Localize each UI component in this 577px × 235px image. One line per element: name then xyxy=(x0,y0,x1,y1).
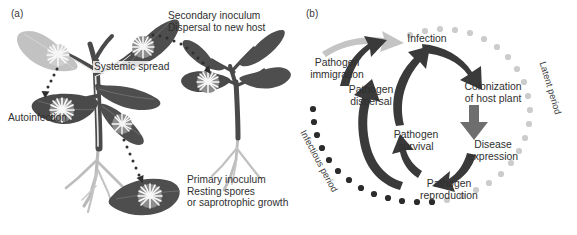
leaf-pale-upper-left xyxy=(17,31,78,71)
label-disease-expression: Disease expression xyxy=(454,139,532,163)
label-primary-inoculum: Primary inoculum Resting spores or sapro… xyxy=(187,174,288,209)
lesion-pale-leaf xyxy=(47,44,69,66)
panel-b: (b) xyxy=(292,0,577,235)
label-infection: Infection xyxy=(394,33,460,45)
panel-a: (a) xyxy=(0,0,292,235)
label-pathogen-immigration: Pathogen immigration xyxy=(300,57,374,81)
lesion-fallen-leaf xyxy=(138,184,162,208)
label-systemic-spread: Systemic spread xyxy=(93,61,170,73)
lesion-new-host-leaf xyxy=(197,71,219,93)
label-pathogen-dispersal: Pathogen dispersal xyxy=(337,84,405,108)
arrow-autoinfection xyxy=(42,68,59,99)
arrow-primary-inoculum xyxy=(123,139,144,184)
figure-disease-cycle: (a) xyxy=(0,0,577,235)
new-host-plant xyxy=(181,30,291,190)
label-pathogen-survival: Pathogen survival xyxy=(382,129,450,153)
arrow-colonization-to-disease xyxy=(460,105,488,140)
label-secondary-inoculum: Secondary inoculum Dispersal to new host xyxy=(168,10,265,33)
label-autoinfection: Autoinfection xyxy=(8,112,67,124)
lesion-lower-middle-leaf xyxy=(112,114,132,134)
label-colonization-of-host-plant: Colonization of host plant xyxy=(447,81,539,105)
label-pathogen-reproduction: Pathogen reproduction xyxy=(409,178,489,202)
lesion-upper-right-leaf xyxy=(132,36,154,58)
